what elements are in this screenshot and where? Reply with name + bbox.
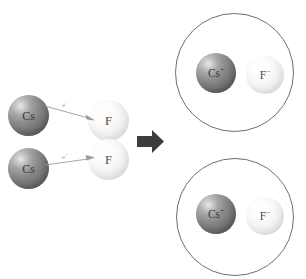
electron-transfer-arrow-icon xyxy=(44,148,96,174)
electron-label: e− xyxy=(62,100,68,109)
fluoride-anion-charge: − xyxy=(266,68,270,76)
fluoride-anion-label: F− xyxy=(260,210,270,222)
electron-charge: − xyxy=(65,151,68,157)
cesium-cation-sphere: Cs+ xyxy=(196,53,236,93)
electron-transfer-arrow-icon xyxy=(44,96,96,124)
fluoride-anion-sphere: F− xyxy=(246,56,284,94)
reaction-arrow-icon xyxy=(137,129,164,154)
cesium-cation-label: Cs+ xyxy=(208,67,224,79)
cesium-atom-label: Cs xyxy=(22,109,35,122)
fluorine-atom-label: F xyxy=(105,114,112,128)
cesium-cation-label: Cs+ xyxy=(208,208,224,220)
cesium-cation-sphere: Cs+ xyxy=(196,194,236,234)
cesium-atom-label: Cs xyxy=(22,162,35,175)
cesium-atom-sphere: Cs xyxy=(8,95,49,136)
cesium-cation-charge: + xyxy=(220,66,224,74)
fluoride-anion-charge: − xyxy=(266,209,270,217)
cesium-cation-charge: + xyxy=(220,207,224,215)
fluoride-anion-label: F− xyxy=(260,69,270,81)
fluoride-anion-sphere: F− xyxy=(246,197,284,235)
electron-label: e− xyxy=(62,152,68,161)
electron-charge: − xyxy=(65,99,68,105)
fluorine-atom-label: F xyxy=(105,153,112,167)
cesium-atom-sphere: Cs xyxy=(8,148,49,189)
ionic-bond-formation-diagram: Cs Cs F F e− e− Cs+ F− Cs+ F− xyxy=(0,0,306,279)
